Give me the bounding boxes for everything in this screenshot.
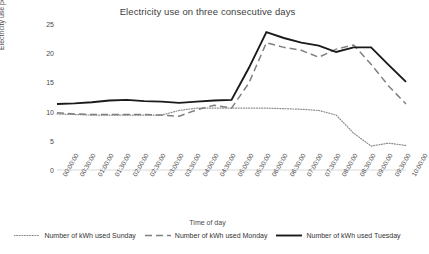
x-tick-label: 08:00:00 [340, 174, 346, 178]
legend-swatch-dotted [14, 232, 40, 239]
legend-swatch-solid [276, 232, 302, 239]
x-tick-label: 09:00:00 [375, 174, 381, 178]
x-tick-label: 10:00:00 [410, 174, 416, 178]
series-line-0 [57, 108, 406, 146]
x-tick-label: 06:00:00 [270, 174, 276, 178]
x-tick-label: 03:30:00 [183, 174, 189, 178]
x-tick-label: 03:00:00 [166, 174, 172, 178]
x-axis-label: Time of day [0, 219, 415, 226]
series-line-1 [57, 43, 406, 117]
legend-label: Number of kWh used Monday [175, 232, 268, 239]
x-tick-label: 05:00:00 [236, 174, 242, 178]
legend-label: Number of kWh used Tuesday [306, 232, 400, 239]
x-tick-label: 01:00:00 [96, 174, 102, 178]
x-tick-label: 04:30:00 [218, 174, 224, 178]
x-axis-ticks: 00:00:0000:30:0001:00:0001:30:0002:00:00… [0, 174, 415, 220]
legend-swatch-dashed [145, 232, 171, 239]
legend-item[interactable]: Number of kWh used Monday [145, 232, 268, 239]
legend-label: Number of kWh used Sunday [44, 232, 135, 239]
x-tick-label: 07:00:00 [305, 174, 311, 178]
legend-item[interactable]: Number of kWh used Tuesday [276, 232, 400, 239]
x-tick-label: 01:30:00 [113, 174, 119, 178]
legend-item[interactable]: Number of kWh used Sunday [14, 232, 135, 239]
x-tick-label: 05:30:00 [253, 174, 259, 178]
x-tick-label: 00:30:00 [78, 174, 84, 178]
x-tick-label: 02:30:00 [148, 174, 154, 178]
x-tick-label: 04:00:00 [201, 174, 207, 178]
x-tick-label: 09:30:00 [393, 174, 399, 178]
x-tick-label: 02:00:00 [131, 174, 137, 178]
series-line-2 [57, 32, 406, 104]
x-tick-label: 06:30:00 [288, 174, 294, 178]
x-tick-label: 00:00:00 [61, 174, 67, 178]
chart-legend: Number of kWh used SundayNumber of kWh u… [0, 232, 415, 239]
x-tick-label: 08:30:00 [358, 174, 364, 178]
x-tick-label: 07:30:00 [323, 174, 329, 178]
